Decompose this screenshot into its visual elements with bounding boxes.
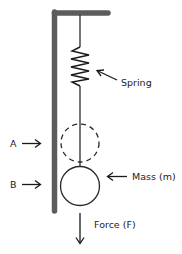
force-label: Force (F) — [94, 219, 136, 230]
position-a-callout: A — [10, 138, 41, 149]
spring-label: Spring — [121, 77, 152, 88]
spring-mass-diagram: Spring A B Mass (m) Force (F) — [0, 0, 182, 254]
force-callout: Force (F) — [76, 213, 136, 244]
position-b-callout: B — [10, 179, 41, 190]
mass-label: Mass (m) — [132, 171, 176, 182]
position-b-label: B — [10, 179, 17, 190]
mass-callout: Mass (m) — [108, 171, 176, 182]
position-a-label: A — [10, 138, 17, 149]
spring-callout: Spring — [97, 70, 152, 88]
spring-coil — [71, 47, 89, 86]
mass-position-b — [61, 167, 100, 206]
